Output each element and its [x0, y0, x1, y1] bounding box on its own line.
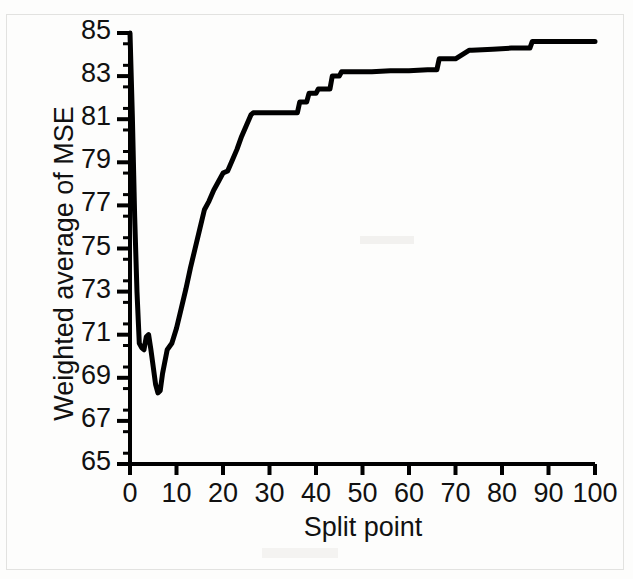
y-axis-title: Weighted average of MSE — [49, 44, 80, 484]
series-line — [130, 33, 595, 393]
y-tick-label: 85 — [51, 15, 111, 46]
axis-lines — [130, 33, 595, 464]
chart-figure: 6567697173757779818385 01020304050607080… — [0, 0, 633, 579]
x-tick-label: 100 — [565, 478, 625, 509]
x-axis-title: Split point — [130, 512, 596, 543]
data-series-lines — [130, 33, 595, 393]
